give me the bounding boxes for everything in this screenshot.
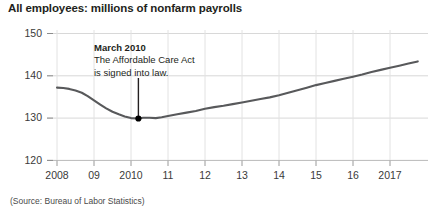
y-tick-label-140: 140 [12, 69, 42, 81]
x-tick-label-2014: 14 [259, 169, 299, 181]
chart-canvas [0, 0, 435, 217]
x-tick-label-2015: 15 [296, 169, 336, 181]
y-axis-ticks [47, 34, 53, 161]
x-tick-label-2016: 16 [333, 169, 373, 181]
y-tick-label-130: 130 [12, 111, 42, 123]
x-tick-label-2017: 2017 [370, 169, 410, 181]
y-tick-label-150: 150 [12, 27, 42, 39]
x-tick-label-2011: 11 [148, 169, 188, 181]
source-note: (Source: Bureau of Labor Statistics) [10, 196, 145, 206]
annotation-line-2: is signed into law. [94, 67, 244, 80]
x-tick-label-2008: 2008 [37, 169, 77, 181]
x-axis-ticks [57, 160, 390, 166]
chart-figure: All employees: millions of nonfarm payro… [0, 0, 435, 217]
annotation-point-marker [135, 115, 141, 121]
plot-area: 150 140 130 120 2008 09 2010 11 12 13 14… [0, 0, 435, 217]
x-tick-label-2013: 13 [222, 169, 262, 181]
annotation-headline: March 2010 [94, 42, 244, 54]
annotation-callout: March 2010 The Affordable Care Act is si… [94, 42, 244, 79]
y-tick-label-120: 120 [12, 154, 42, 166]
annotation-line-1: The Affordable Care Act [94, 54, 244, 67]
x-tick-label-2010: 2010 [111, 169, 151, 181]
x-tick-label-2009: 09 [74, 169, 114, 181]
x-tick-label-2012: 12 [185, 169, 225, 181]
